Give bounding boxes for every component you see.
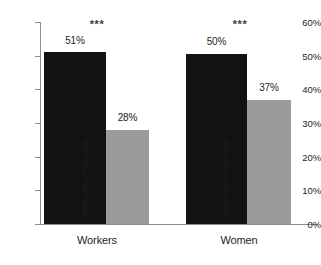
bar-women-recruits: Percent of recruits: [247, 100, 291, 224]
significance-marker-women: ***: [216, 20, 264, 28]
y-tick-30: [35, 123, 40, 124]
bar-workers-recruits: Percent of recruits: [106, 130, 149, 224]
bar-label-workers-general-public: Percent in the general public: [7, 97, 16, 216]
y-tick-label-10: 10%: [289, 186, 321, 196]
bar-label-women-recruits: Percent of recruits: [222, 139, 231, 216]
y-axis-line: [40, 22, 41, 225]
y-tick-label-20: 20%: [289, 153, 321, 163]
y-tick-label-60: 60%: [289, 18, 321, 28]
bar-value-workers-general-public: 51%: [44, 36, 106, 46]
bar-women-general-public: Percent in the general public: [186, 54, 247, 224]
y-tick-50: [35, 56, 40, 57]
y-tick-label-40: 40%: [289, 85, 321, 95]
category-label-workers: Workers: [56, 234, 138, 246]
bar-value-women-recruits: 37%: [247, 83, 291, 93]
x-axis-line: [40, 224, 318, 225]
bar-label-women-general-public: Percent in the general public: [148, 97, 157, 216]
y-tick-label-50: 50%: [289, 52, 321, 62]
bar-workers-general-public: Percent in the general public: [44, 52, 106, 224]
significance-marker-workers: ***: [73, 20, 121, 28]
y-tick-label-30: 30%: [289, 119, 321, 129]
y-tick-0: [35, 224, 40, 225]
bar-label-workers-recruits: Percent of recruits: [80, 139, 89, 216]
bar-chart: 60% 50% 40% 30% 20% 10% 0% *** *** 51% P…: [0, 0, 321, 265]
category-label-women: Women: [198, 234, 280, 246]
y-tick-40: [35, 89, 40, 90]
y-tick-20: [35, 157, 40, 158]
y-tick-10: [35, 190, 40, 191]
bar-value-workers-recruits: 28%: [106, 113, 149, 123]
bar-value-women-general-public: 50%: [186, 37, 247, 47]
y-tick-60: [35, 22, 40, 23]
y-tick-label-0: 0%: [289, 220, 321, 230]
